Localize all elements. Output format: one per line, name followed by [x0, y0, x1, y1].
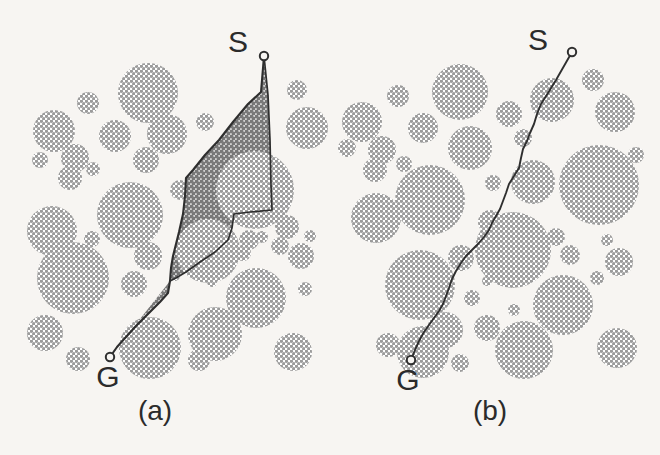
obstacle-circle: [514, 129, 532, 147]
obstacle-circle: [448, 126, 492, 170]
obstacle-circle: [86, 162, 100, 176]
panel-caption-b: (b): [473, 395, 507, 426]
obstacle-circle: [196, 113, 214, 131]
obstacle-circle: [287, 80, 307, 100]
obstacle-circle: [274, 333, 312, 371]
figure-container: S G (a) S G (b): [0, 0, 660, 455]
obstacle-circle: [448, 245, 474, 271]
start-label-a: S: [228, 25, 248, 58]
panel-caption-a: (a): [138, 395, 172, 426]
obstacle-circle: [590, 271, 604, 285]
obstacle-circle: [432, 64, 488, 120]
obstacle-circle: [496, 101, 522, 127]
obstacle-circle: [451, 354, 469, 372]
obstacle-circle: [58, 166, 82, 190]
obstacle-circle: [188, 307, 242, 361]
obstacle-circle: [256, 231, 268, 243]
obstacle-circle: [119, 317, 181, 379]
obstacle-circle: [533, 275, 593, 335]
obstacle-circle: [271, 237, 289, 255]
obstacle-circle: [482, 276, 492, 286]
obstacle-circle: [304, 230, 316, 242]
obstacle-circle: [395, 165, 465, 235]
obstacle-circle: [338, 139, 356, 157]
obstacle-circle: [511, 160, 555, 204]
goal-label-a: G: [96, 360, 119, 393]
obstacle-circle: [258, 314, 270, 326]
obstacle-circle: [235, 245, 251, 261]
obstacle-circle: [387, 85, 409, 107]
start-point-marker-a: [260, 52, 268, 60]
obstacle-circle: [495, 321, 553, 379]
obstacle-circle: [298, 282, 312, 296]
obstacle-circle: [560, 245, 580, 265]
obstacle-circle: [351, 193, 401, 243]
obstacle-circle: [559, 145, 639, 225]
obstacle-circle: [485, 175, 501, 191]
obstacle-circle: [118, 63, 178, 123]
obstacle-circle: [396, 156, 412, 172]
obstacle-circle: [597, 328, 637, 368]
obstacle-circle: [207, 277, 217, 287]
obstacle-circle: [474, 315, 500, 341]
obstacle-circle: [547, 228, 565, 246]
obstacle-circle: [582, 69, 604, 91]
obstacle-circle: [147, 114, 187, 154]
obstacle-circle: [27, 315, 63, 351]
obstacle-circle: [408, 113, 438, 143]
obstacle-circle: [99, 120, 131, 152]
obstacle-circle: [286, 107, 328, 149]
obstacle-circle: [275, 215, 299, 239]
obstacle-circle: [342, 102, 382, 142]
goal-label-b: G: [396, 363, 419, 396]
obstacle-circle: [133, 147, 159, 173]
figure-svg: S G (a) S G (b): [0, 0, 660, 455]
start-label-b: S: [528, 23, 548, 56]
obstacle-circle: [121, 271, 147, 297]
obstacle-circle: [376, 333, 400, 357]
obstacle-circle: [628, 147, 644, 163]
obstacle-circle: [66, 347, 90, 371]
obstacle-circle: [363, 158, 387, 182]
obstacle-circle: [508, 304, 520, 316]
obstacle-circle: [77, 92, 99, 114]
obstacle-circle: [32, 152, 48, 168]
obstacle-circle: [385, 250, 455, 320]
obstacle-circle: [601, 234, 613, 246]
obstacle-circle: [134, 242, 162, 270]
obstacle-circle: [37, 242, 109, 314]
obstacle-circle: [605, 248, 633, 276]
obstacle-circle: [97, 182, 163, 248]
obstacle-circle: [288, 243, 314, 269]
obstacle-circle: [595, 92, 635, 132]
start-point-marker-b: [568, 48, 576, 56]
obstacle-circle: [464, 290, 480, 306]
obstacle-circle: [176, 219, 240, 283]
